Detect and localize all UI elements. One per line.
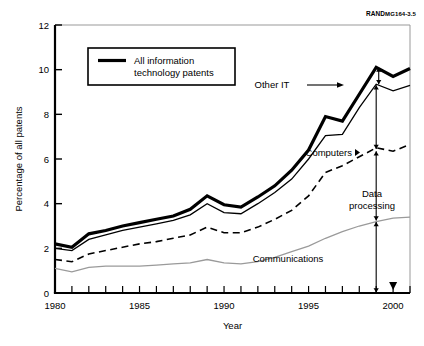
chart-canvas: 02468101219801985199019952000YearPercent…: [0, 0, 424, 346]
series-line-light-solid: [55, 217, 410, 272]
annotation-computers: Computers: [306, 147, 353, 158]
x-tick-label: 2000: [383, 300, 404, 311]
annotation-other-it: Other IT: [255, 79, 290, 90]
arrow-data-head-b: [374, 216, 379, 220]
series-line-thin-solid: [55, 84, 410, 250]
computers-leader-head: [355, 149, 360, 156]
y-tick-label: 10: [38, 64, 49, 75]
arrow-other-it-head-b: [376, 80, 381, 84]
x-tick-label: 1995: [298, 300, 319, 311]
x-2000-pointer: [389, 282, 397, 290]
arrow-data-head-a: [374, 151, 379, 155]
y-tick-label: 0: [44, 288, 49, 299]
y-tick-label: 8: [44, 109, 49, 120]
annotation-data-processing-line2: processing: [349, 200, 395, 211]
annotation-communications: Communications: [253, 253, 324, 264]
y-tick-label: 4: [44, 198, 49, 209]
legend-label-line1: All information: [134, 55, 194, 66]
x-axis-title: Year: [223, 320, 242, 331]
y-tick-label: 12: [38, 20, 49, 31]
x-tick-label: 1985: [129, 300, 150, 311]
legend-label-line2: technology patents: [134, 67, 214, 78]
chart-figure: RANDMG164-3.5 02468101219801985199019952…: [0, 0, 424, 346]
y-tick-label: 6: [44, 154, 49, 165]
other-it-leader-head: [337, 82, 344, 88]
y-axis-title: Percentage of all patents: [13, 106, 24, 211]
annotation-data-processing-line1: Data: [362, 188, 383, 199]
y-tick-label: 2: [44, 243, 49, 254]
x-tick-label: 1980: [44, 300, 65, 311]
x-tick-label: 1990: [213, 300, 234, 311]
